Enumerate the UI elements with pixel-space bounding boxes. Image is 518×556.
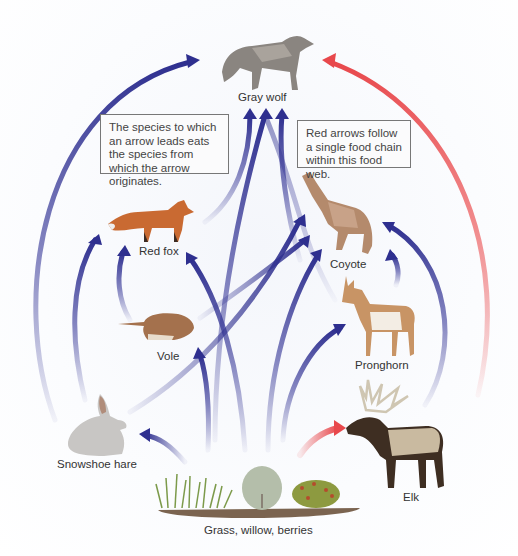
label-gray-wolf: Gray wolf — [238, 91, 287, 103]
gray-wolf-illustration — [222, 36, 314, 90]
arrow-vole-to-fox — [119, 252, 130, 320]
plants-illustration — [156, 466, 360, 518]
label-snowshoe-hare: Snowshoe hare — [57, 458, 137, 470]
red-fox-illustration — [108, 200, 194, 242]
label-pronghorn: Pronghorn — [355, 359, 409, 371]
label-vole: Vole — [157, 350, 179, 362]
arrow-vole-to-coyote — [200, 240, 305, 318]
note-red-arrows: Red arrows follow a single food chain wi… — [297, 120, 411, 168]
arrow-plants-to-vole — [200, 355, 208, 450]
coyote-illustration — [302, 172, 372, 254]
food-web-diagram: Gray wolf Red fox Coyote Vole Pronghorn … — [0, 0, 518, 556]
label-plants: Grass, willow, berries — [204, 524, 313, 536]
snowshoe-hare-illustration — [68, 394, 127, 456]
arrow-hare-to-fox — [75, 240, 95, 400]
food-web-arrows — [0, 0, 518, 556]
label-elk: Elk — [403, 491, 419, 503]
pronghorn-illustration — [342, 276, 415, 356]
label-red-fox: Red fox — [139, 245, 179, 257]
note-arrow-direction: The species to which an arrow leads eats… — [100, 114, 229, 174]
label-coyote: Coyote — [330, 258, 366, 270]
arrow-plants-to-elk-red — [300, 428, 338, 455]
arrow-plants-to-pronghorn — [283, 328, 340, 440]
arrow-plants-to-hare — [145, 435, 185, 462]
